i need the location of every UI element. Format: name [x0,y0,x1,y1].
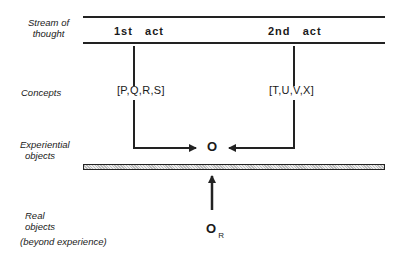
concept-1-arrow [134,100,196,148]
experience-boundary-bar [83,164,385,170]
real-object: OR [206,219,222,237]
arrows [0,0,403,261]
concept-2-arrow [229,100,294,148]
real-object-symbol: O [206,221,216,236]
real-object-subscript: R [218,231,224,240]
experiential-object: O [207,139,217,154]
